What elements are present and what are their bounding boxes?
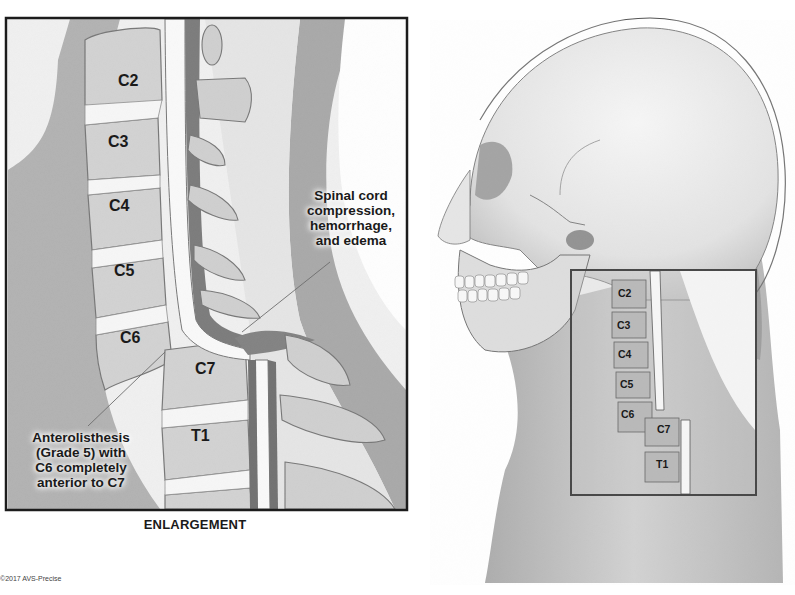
overview-label-t1: T1 <box>656 459 668 471</box>
enlargement-caption: ENLARGEMENT <box>140 518 250 533</box>
vertebra-label-c4: C4 <box>109 197 129 215</box>
vertebra-label-c7: C7 <box>195 360 215 378</box>
vertebra-label-c6: C6 <box>120 329 140 347</box>
head-neck-overview <box>430 18 795 585</box>
overview-label-c4: C4 <box>618 349 631 361</box>
vertebra-label-c2: C2 <box>118 72 138 90</box>
overview-label-c7: C7 <box>657 424 670 436</box>
overview-label-c3: C3 <box>617 320 630 332</box>
overview-label-c2: C2 <box>618 288 631 300</box>
overview-label-c6: C6 <box>621 409 634 421</box>
vertebra-label-c3: C3 <box>108 133 128 151</box>
vertebra-label-c5: C5 <box>114 262 134 280</box>
overview-label-c5: C5 <box>620 379 633 391</box>
callout-anterolisthesis: Anterolisthesis (Grade 5) with C6 comple… <box>22 430 140 490</box>
callout-spinal-cord-compression: Spinal cord compression, hemorrhage, and… <box>296 188 406 248</box>
copyright-notice: ©2017 AVS-Precise <box>0 575 120 583</box>
vertebra-label-t1: T1 <box>191 427 210 445</box>
